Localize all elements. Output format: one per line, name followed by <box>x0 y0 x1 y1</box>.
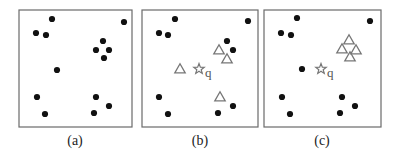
neighbor-triangle-icon <box>215 92 225 101</box>
data-point-dot <box>278 30 284 36</box>
data-point-dot <box>294 15 300 21</box>
data-point-dot <box>230 103 236 109</box>
query-star-icon <box>194 64 204 74</box>
data-point-dot <box>279 94 285 100</box>
data-point-dot <box>288 32 294 38</box>
data-point-dot <box>215 110 221 116</box>
panel-frame <box>142 10 258 127</box>
data-point-dot <box>100 38 106 44</box>
data-point-dot <box>156 30 162 36</box>
data-point-dot <box>165 111 171 117</box>
data-point-dot <box>156 94 162 100</box>
data-point-dot <box>93 94 99 100</box>
neighbor-triangle-icon <box>222 54 232 63</box>
neighbor-triangle-icon <box>214 45 224 54</box>
panel-frame <box>264 10 381 127</box>
panel-caption: (a) <box>67 133 83 149</box>
neighbor-triangle-icon <box>337 44 347 53</box>
data-point-dot <box>34 94 40 100</box>
panel-a: (a) <box>19 10 132 149</box>
figure-canvas: (a)q(b)q(c) <box>0 0 395 156</box>
data-point-dot <box>106 47 112 53</box>
data-point-dot <box>165 32 171 38</box>
data-point-dot <box>93 47 99 53</box>
panel-c: q(c) <box>264 10 381 149</box>
panel-frame <box>19 10 132 127</box>
data-point-dot <box>42 111 48 117</box>
neighbor-triangle-icon <box>344 35 354 44</box>
data-point-dot <box>287 111 293 117</box>
data-point-dot <box>245 18 251 24</box>
data-point-dot <box>172 16 178 22</box>
data-point-dot <box>352 103 358 109</box>
data-point-dot <box>224 38 230 44</box>
data-point-dot <box>337 110 343 116</box>
data-point-dot <box>91 110 97 116</box>
data-point-dot <box>299 66 305 72</box>
query-label: q <box>205 65 212 80</box>
neighbor-triangle-icon <box>175 64 185 73</box>
query-star-icon <box>316 64 326 74</box>
data-point-dot <box>43 32 49 38</box>
query-label: q <box>327 65 334 80</box>
data-point-dot <box>54 67 60 73</box>
data-point-dot <box>49 16 55 22</box>
panel-caption: (c) <box>314 133 330 149</box>
data-point-dot <box>230 47 236 53</box>
data-point-dot <box>106 103 112 109</box>
data-point-dot <box>121 19 127 25</box>
neighbor-triangle-icon <box>351 45 361 54</box>
data-point-dot <box>101 55 107 61</box>
panel-caption: (b) <box>192 133 209 149</box>
data-point-dot <box>339 94 345 100</box>
panel-b: q(b) <box>142 10 258 149</box>
data-point-dot <box>367 18 373 24</box>
data-point-dot <box>33 30 39 36</box>
